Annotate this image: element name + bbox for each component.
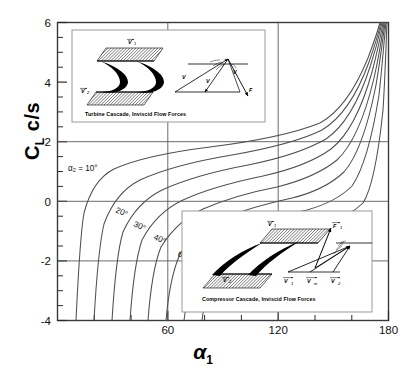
compressor-upper-wall xyxy=(260,229,330,243)
y-axis-label-sub: L xyxy=(33,137,47,145)
y-axis-label-main: C xyxy=(21,145,43,160)
turbine-tri-vm: V xyxy=(206,78,210,84)
compressor-v2-label: V xyxy=(223,277,227,283)
x-axis-minor-ticks xyxy=(94,315,352,321)
y-axis-minor-ticks xyxy=(58,37,64,305)
compressor-tri-v2: V xyxy=(331,278,335,284)
y-axis-label-rest: c/s xyxy=(21,102,43,137)
compressor-inset: V 1 V 2 F 1 xyxy=(182,211,372,312)
xtick-180: 180 xyxy=(379,324,398,336)
ytick-6: 6 xyxy=(45,17,51,29)
compressor-tri-v1-sub: 1 xyxy=(291,281,293,286)
turbine-v1-sub: 1 xyxy=(134,41,136,46)
turbine-upper-wall xyxy=(97,48,163,61)
compressor-tri-vm-sub: m xyxy=(314,281,318,286)
curve-label-40: 40° xyxy=(152,233,167,246)
turbine-inset-caption: Turbine Cascade, Inviscid Flow Forces xyxy=(85,111,186,117)
x-axis-label-main: α xyxy=(193,340,206,363)
turbine-lower-wall xyxy=(87,92,153,105)
compressor-lower-wall xyxy=(203,274,272,288)
turbine-tri-v2: V xyxy=(233,69,237,75)
ytick-0: 0 xyxy=(45,196,51,208)
curve-label-10: α₂ = 10° xyxy=(68,164,98,173)
compressor-tri-vm: V xyxy=(307,278,311,284)
chart-svg: 6 4 2 0 -2 -4 60 120 180 xyxy=(0,0,406,380)
compressor-inset-caption: Compressor Cascade, Inviscid Flow Forces xyxy=(202,296,316,302)
turbine-v2-label: V xyxy=(81,88,85,94)
x-axis-label: α1 xyxy=(0,340,406,367)
curve-label-20: 20° xyxy=(114,206,129,219)
x-axis-tick-labels: 60 120 180 xyxy=(161,324,398,336)
compressor-tri-v1: V xyxy=(284,278,288,284)
compressor-v1-label: V xyxy=(268,221,272,227)
y-axis-label: CL c/s xyxy=(21,71,47,191)
x-axis-label-sub: 1 xyxy=(206,353,213,367)
compressor-v1-sub: 1 xyxy=(274,223,276,228)
turbine-inset: V 1 V 2 V V V F xyxy=(72,30,265,122)
turbine-tri-v1: V xyxy=(182,74,186,80)
xtick-120: 120 xyxy=(269,324,288,336)
ytick-neg2: -2 xyxy=(41,255,51,267)
curve-label-30: 30° xyxy=(132,220,147,233)
figure-container: CL c/s α1 xyxy=(0,0,406,380)
compressor-f-sub: 1 xyxy=(340,225,342,230)
turbine-v1-label: V xyxy=(128,39,132,45)
ytick-neg4: -4 xyxy=(41,315,52,327)
xtick-60: 60 xyxy=(161,324,174,336)
